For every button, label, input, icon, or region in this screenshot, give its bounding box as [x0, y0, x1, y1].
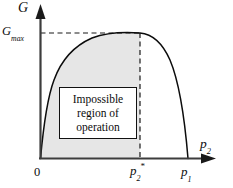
y-tick-label-gmax: Gmax: [2, 25, 24, 38]
x-tick-label-p1: p1: [181, 165, 192, 178]
p2star-base: p: [130, 163, 137, 178]
annotation-line-2: region of: [77, 106, 119, 120]
p2star-superscript: *: [141, 161, 146, 171]
annotation-line-1: Impossible: [73, 92, 123, 106]
figure-container: G Gmax p2 0 p2* p1 Impossible region of …: [0, 0, 233, 188]
impossible-region-annotation-box: Impossible region of operation: [59, 87, 137, 139]
p1-subscript: 1: [188, 175, 192, 184]
x-axis-label-base: p: [200, 136, 207, 151]
x-axis-label-subscript: 2: [207, 147, 211, 156]
gmax-base: G: [2, 24, 11, 38]
p2star-subscript: 2: [137, 174, 141, 183]
p1-base: p: [181, 164, 188, 179]
y-axis-label: G: [18, 1, 28, 15]
x-tick-label-origin: 0: [34, 166, 40, 179]
y-axis-label-text: G: [18, 0, 28, 15]
gmax-subscript: max: [11, 34, 24, 43]
y-axis-arrowhead: [36, 4, 46, 19]
x-tick-label-p2star: p2*: [130, 164, 145, 177]
x-axis-label: p2: [200, 137, 211, 151]
annotation-line-3: operation: [76, 120, 119, 134]
